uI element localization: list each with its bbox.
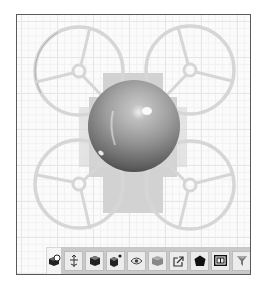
export-button[interactable] bbox=[169, 251, 188, 271]
solid-button[interactable] bbox=[85, 251, 104, 271]
view-toolbar bbox=[46, 247, 249, 274]
visibility-button[interactable] bbox=[127, 251, 146, 271]
shape-button[interactable] bbox=[190, 251, 209, 271]
move-button[interactable] bbox=[64, 251, 83, 271]
filter-button[interactable] bbox=[232, 251, 251, 271]
dome-sphere bbox=[88, 80, 180, 172]
layers-icon bbox=[151, 255, 164, 267]
cube-add-icon bbox=[109, 254, 122, 267]
eye-icon bbox=[130, 256, 143, 266]
drone-model[interactable] bbox=[17, 15, 250, 274]
layers-button[interactable] bbox=[148, 251, 167, 271]
view-cube-icon bbox=[47, 254, 61, 268]
move-axis-icon bbox=[68, 254, 80, 268]
view-cube-button[interactable] bbox=[46, 247, 61, 274]
export-icon bbox=[173, 255, 185, 267]
add-object-button[interactable] bbox=[106, 251, 125, 271]
filter-icon bbox=[236, 255, 248, 267]
toolbar-button-group bbox=[61, 247, 251, 274]
frame-button[interactable] bbox=[211, 251, 230, 271]
polyhedron-icon bbox=[194, 255, 206, 267]
solid-cube-icon bbox=[89, 255, 101, 267]
frame-icon bbox=[214, 255, 227, 266]
3d-viewport[interactable] bbox=[16, 14, 251, 275]
